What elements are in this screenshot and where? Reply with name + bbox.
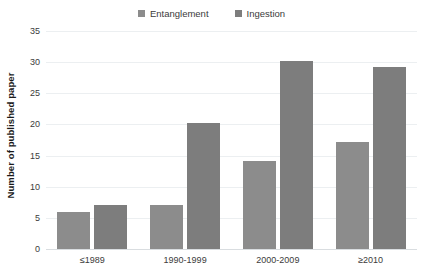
y-tick-label-5: 5: [35, 213, 40, 223]
y-tick-label-35: 35: [30, 26, 40, 36]
y-axis-title: Number of published paper: [2, 0, 18, 271]
y-tick-label-25: 25: [30, 88, 40, 98]
bar-entanglement-2[interactable]: [150, 205, 183, 249]
bar-ingestion-3[interactable]: [280, 61, 313, 249]
bar-group-2: 1990-1999: [139, 31, 232, 249]
x-tick-label-2: 1990-1999: [139, 255, 232, 265]
x-tick-label-1: ≤1989: [46, 255, 139, 265]
y-tick-label-30: 30: [30, 57, 40, 67]
legend-swatch-ingestion-icon: [235, 10, 242, 17]
bar-chart: Entanglement Ingestion Number of publish…: [0, 0, 423, 271]
x-tick-label-3: 2000-2009: [232, 255, 325, 265]
legend-label-entanglement: Entanglement: [150, 9, 209, 19]
bar-group-1: ≤1989: [46, 31, 139, 249]
y-tick-label-15: 15: [30, 151, 40, 161]
bar-ingestion-2[interactable]: [187, 123, 220, 249]
bar-entanglement-1[interactable]: [57, 212, 90, 249]
bar-group-3: 2000-2009: [232, 31, 325, 249]
legend-item-ingestion: Ingestion: [235, 9, 286, 19]
bar-entanglement-4[interactable]: [336, 142, 369, 249]
y-tick-label-0: 0: [35, 244, 40, 254]
bar-groups: ≤19891990-19992000-2009≥2010: [46, 31, 417, 249]
legend-label-ingestion: Ingestion: [247, 9, 286, 19]
bar-group-4: ≥2010: [324, 31, 417, 249]
plot-area: 05101520253035 ≤19891990-19992000-2009≥2…: [46, 31, 417, 249]
y-tick-label-10: 10: [30, 182, 40, 192]
bar-ingestion-1[interactable]: [94, 205, 127, 249]
chart-legend: Entanglement Ingestion: [0, 9, 423, 19]
legend-swatch-entanglement-icon: [138, 10, 145, 17]
y-tick-label-20: 20: [30, 119, 40, 129]
bar-ingestion-4[interactable]: [373, 67, 406, 249]
legend-item-entanglement: Entanglement: [138, 9, 209, 19]
y-axis-title-text: Number of published paper: [5, 72, 16, 198]
gridline-0: 0: [46, 249, 417, 250]
x-tick-label-4: ≥2010: [324, 255, 417, 265]
bar-entanglement-3[interactable]: [243, 161, 276, 249]
